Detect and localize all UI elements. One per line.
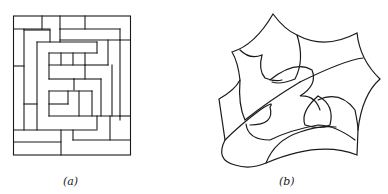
outer-boundary: [219, 14, 380, 167]
arc: [240, 80, 300, 120]
arc: [300, 58, 363, 82]
caption-b: (b): [279, 175, 295, 188]
arc: [304, 96, 331, 128]
arc: [225, 104, 271, 140]
arc: [270, 67, 320, 110]
arc: [266, 127, 336, 163]
curvilinear-diagram: [0, 0, 388, 194]
